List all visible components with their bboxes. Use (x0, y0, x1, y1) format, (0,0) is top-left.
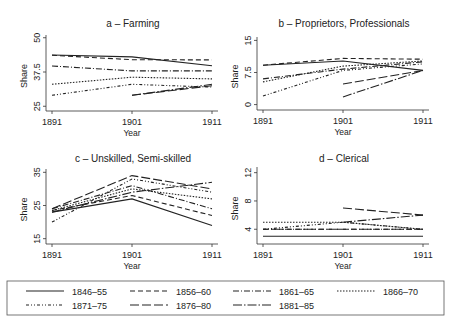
series-line-1861–65 (52, 186, 212, 209)
y-tick-label: 12 (243, 168, 253, 178)
y-axis-label: Share (230, 64, 240, 88)
series-line-1881–85 (343, 215, 423, 222)
legend-label: 1846–55 (72, 287, 107, 297)
y-tick-label: 4 (243, 227, 253, 232)
x-tick-label: 1911 (413, 116, 432, 126)
x-tick-label: 1891 (42, 250, 62, 260)
y-tick-label: 0 (243, 102, 253, 107)
series-line-1876–80 (343, 208, 423, 215)
x-tick-label: 1901 (122, 250, 142, 260)
y-tick-label: 37.5 (32, 63, 42, 81)
y-axis-label: Share (230, 196, 240, 220)
x-tick-label: 1911 (202, 117, 221, 127)
panel-c: c – Unskilled, Semi-skilled152535Share18… (19, 153, 222, 271)
x-tick-label: 1891 (42, 117, 62, 127)
series-line-1866–70 (52, 189, 212, 211)
panel-a: a – Farming2537.550Share189119011911Year (19, 18, 222, 138)
x-tick-label: 1891 (253, 116, 273, 126)
x-axis-label: Year (334, 127, 351, 137)
panels-group: a – Farming2537.550Share189119011911Year… (19, 18, 433, 271)
series-line-1866–70 (52, 77, 212, 84)
legend-label: 1881–85 (279, 301, 314, 311)
y-tick-label: 8 (243, 198, 253, 203)
series-line-1871–75 (263, 222, 423, 229)
legend: 1846–551856–601861–651866–701871–751876–… (7, 281, 444, 315)
panel-title: b – Proprietors, Professionals (278, 18, 409, 29)
x-axis-label: Year (334, 261, 351, 271)
x-tick-label: 1911 (413, 250, 432, 260)
series-line-1866–70 (263, 222, 423, 229)
series-line-1861–65 (52, 66, 212, 71)
y-tick-label: 25 (32, 200, 42, 210)
x-tick-label: 1901 (333, 250, 353, 260)
x-tick-label: 1891 (253, 250, 273, 260)
panel-d: d – Clerical4812Share189119011911Year (230, 153, 433, 271)
legend-label: 1876–80 (176, 301, 211, 311)
x-tick-label: 1901 (333, 116, 353, 126)
y-tick-label: 15 (32, 234, 42, 244)
series-line-1871–75 (52, 84, 212, 95)
chart-figure: a – Farming2537.550Share189119011911Year… (0, 0, 451, 336)
y-axis-label: Share (19, 64, 29, 88)
x-tick-label: 1911 (202, 250, 221, 260)
series-line-1881–85 (132, 84, 212, 95)
series-line-1846–55 (52, 199, 212, 226)
legend-label: 1856–60 (176, 287, 211, 297)
panel-b: b – Proprietors, Professionals07.515Shar… (230, 18, 433, 137)
panel-title: a – Farming (106, 18, 159, 29)
y-tick-label: 7.5 (243, 66, 253, 79)
y-tick-label: 50 (32, 33, 42, 43)
panel-title: c – Unskilled, Semi-skilled (75, 153, 191, 164)
y-tick-label: 35 (32, 167, 42, 177)
legend-label: 1861–65 (279, 287, 314, 297)
x-axis-label: Year (123, 128, 140, 138)
x-axis-label: Year (123, 261, 140, 271)
series-line-1876–80 (343, 70, 423, 84)
series-line-1881–85 (343, 70, 423, 97)
y-tick-label: 15 (243, 35, 253, 45)
panel-title: d – Clerical (319, 153, 369, 164)
y-axis-label: Share (19, 197, 29, 221)
x-tick-label: 1901 (122, 117, 142, 127)
y-tick-label: 25 (32, 101, 42, 111)
legend-label: 1866–70 (383, 287, 418, 297)
legend-label: 1871–75 (72, 301, 107, 311)
